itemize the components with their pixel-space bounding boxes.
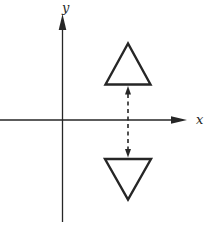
- lower-triangle: [105, 159, 151, 200]
- y-axis-label: y: [61, 0, 70, 15]
- x-axis-label: x: [196, 112, 204, 127]
- reflection-arrowhead-down-icon: [125, 149, 131, 158]
- upper-triangle: [106, 44, 151, 85]
- y-axis-arrowhead: [59, 14, 67, 30]
- x-axis-arrowhead: [171, 116, 187, 123]
- coordinate-plane-figure: x y: [0, 0, 208, 229]
- reflection-arrowhead-up-icon: [125, 86, 131, 95]
- reflection-diagram-svg: x y: [0, 0, 208, 229]
